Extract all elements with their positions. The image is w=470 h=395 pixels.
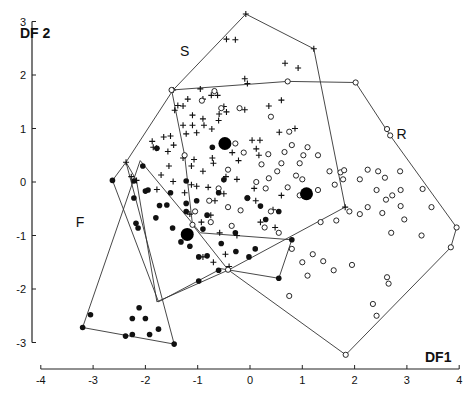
filled-circle-marker xyxy=(170,225,176,231)
open-circle-marker xyxy=(327,169,332,174)
x-tick-label: -1 xyxy=(193,374,203,386)
open-circle-marker xyxy=(287,293,292,298)
filled-circle-marker xyxy=(88,312,94,318)
open-circle-marker xyxy=(229,223,234,228)
plus-marker xyxy=(185,96,191,102)
open-circle-marker xyxy=(212,88,217,93)
filled-circle-marker xyxy=(210,144,216,150)
open-circle-marker xyxy=(282,149,287,154)
open-circle-marker xyxy=(384,126,389,131)
plus-marker xyxy=(200,168,206,174)
plus-marker xyxy=(242,107,248,113)
plus-marker xyxy=(311,46,317,52)
open-circle-marker xyxy=(382,175,387,180)
open-circle-marker xyxy=(300,177,305,182)
plus-marker xyxy=(272,224,278,230)
y-axis-title: DF 2 xyxy=(20,25,51,41)
group-label-f: F xyxy=(76,214,85,230)
filled-circle-marker xyxy=(135,225,141,231)
open-circle-marker xyxy=(233,141,238,146)
filled-circle-marker xyxy=(156,326,162,332)
filled-circle-marker xyxy=(196,254,202,260)
plus-marker xyxy=(253,146,259,152)
plus-marker xyxy=(194,130,200,136)
axes: -4-3-2-101234-3-2-10123 xyxy=(16,16,462,387)
plus-marker xyxy=(212,198,218,204)
x-tick-label: -3 xyxy=(88,374,98,386)
filled-circle-marker xyxy=(145,187,151,193)
filled-circle-marker xyxy=(130,332,136,338)
plus-marker xyxy=(168,133,174,139)
filled-circle-marker xyxy=(131,195,137,201)
plus-marker xyxy=(253,198,259,204)
open-circle-marker xyxy=(384,275,389,280)
open-circle-marker xyxy=(287,129,292,134)
x-tick-label: -4 xyxy=(36,374,46,386)
filled-circle-marker xyxy=(252,246,258,252)
open-circle-marker xyxy=(182,153,187,158)
open-circle-marker xyxy=(349,262,354,267)
plus-marker xyxy=(229,150,235,156)
x-tick-label: 2 xyxy=(352,374,358,386)
open-circle-marker xyxy=(241,150,246,155)
open-circle-marker xyxy=(192,209,197,214)
plus-marker xyxy=(278,97,284,103)
plus-marker xyxy=(222,251,228,257)
open-circle-marker xyxy=(289,246,294,251)
group-centroids xyxy=(181,137,313,241)
plot-canvas: -4-3-2-101234-3-2-10123 SRF DF 2 DF1 xyxy=(0,0,470,395)
open-circle-marker xyxy=(347,209,352,214)
plus-marker xyxy=(234,176,240,182)
plus-marker xyxy=(200,116,206,122)
filled-circle-marker xyxy=(263,217,269,223)
plus-marker xyxy=(170,178,176,184)
open-circle-marker xyxy=(300,260,305,265)
x-tick-label: 0 xyxy=(247,374,253,386)
open-circle-marker xyxy=(448,245,453,250)
open-circle-marker xyxy=(279,161,284,166)
filled-circle-marker xyxy=(233,249,239,255)
group-label-r: R xyxy=(397,126,407,142)
open-circle-marker xyxy=(275,169,280,174)
plus-marker xyxy=(191,157,197,163)
filled-circle-marker xyxy=(200,226,206,232)
open-circle-marker xyxy=(225,267,230,272)
plus-marker xyxy=(217,230,223,236)
open-circle-marker xyxy=(340,177,345,182)
open-circle-marker xyxy=(398,203,403,208)
open-circle-marker xyxy=(342,168,347,173)
open-circle-marker xyxy=(219,106,224,111)
filled-circle-marker xyxy=(136,305,142,311)
open-circle-marker xyxy=(331,268,336,273)
open-circle-marker xyxy=(254,179,259,184)
y-tick-label: -2 xyxy=(16,283,26,295)
filled-circle-marker xyxy=(221,177,227,183)
filled-circle-marker xyxy=(171,341,177,347)
open-circle-marker xyxy=(266,176,271,181)
filled-circle-marker xyxy=(183,201,189,207)
filled-circle-marker xyxy=(80,325,86,331)
plus-marker xyxy=(278,192,284,198)
open-circle-marker xyxy=(365,205,370,210)
open-circle-marker xyxy=(402,217,407,222)
filled-circle-marker xyxy=(194,198,200,204)
plus-marker xyxy=(210,160,216,166)
open-circle-marker xyxy=(389,230,394,235)
open-circle-marker xyxy=(289,142,294,147)
open-circle-marker xyxy=(310,252,315,257)
filled-circle-marker xyxy=(130,316,136,322)
open-circle-marker xyxy=(315,187,320,192)
open-circle-marker xyxy=(357,212,362,217)
open-circle-marker xyxy=(266,152,271,157)
open-circle-marker xyxy=(388,133,393,138)
open-circle-marker xyxy=(419,233,424,238)
x-tick-label: 4 xyxy=(456,374,462,386)
y-tick-label: 2 xyxy=(20,69,26,81)
plus-marker xyxy=(205,184,211,190)
open-circle-marker xyxy=(225,205,230,210)
filled-circle-marker xyxy=(140,163,146,169)
filled-circle-marker xyxy=(153,215,159,221)
filled-circle-marker xyxy=(276,276,282,282)
plus-marker xyxy=(149,138,155,144)
open-circle-marker xyxy=(199,98,204,103)
